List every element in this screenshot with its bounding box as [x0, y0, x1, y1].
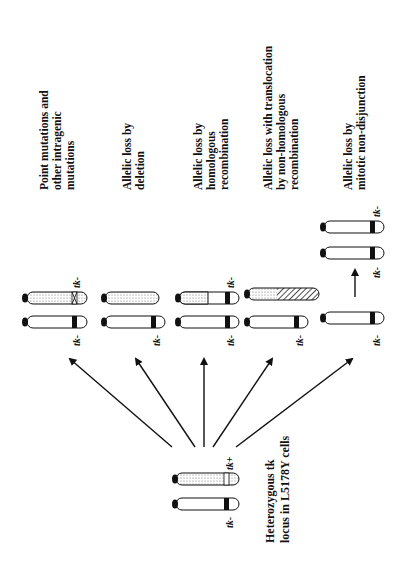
- outcome-translocation: tk-: [244, 288, 319, 346]
- centromere-icon: [101, 294, 107, 303]
- outcome-nondisjunction: tk- tk- tk-: [320, 206, 384, 346]
- centromere-icon: [320, 249, 326, 258]
- allele-label: tk+: [224, 456, 235, 470]
- chromosome-tk-minus: [244, 316, 308, 328]
- label-nondisjunction: Allelic loss by mitotic non-disjunction: [342, 75, 368, 190]
- svg-text:Allelic loss with translocatio: Allelic loss with translocation: [262, 45, 274, 190]
- svg-text:mitotic non-disjunction: mitotic non-disjunction: [355, 75, 368, 190]
- chromosome-tk-minus: [172, 498, 239, 510]
- svg-text:homologous: homologous: [205, 131, 218, 190]
- outcome-point-mutations: tk- tk-: [22, 277, 87, 346]
- allele-label: tk-: [71, 277, 82, 288]
- allele-label: tk-: [225, 277, 236, 288]
- chromosome-tk-minus: [175, 316, 239, 328]
- source-heterozygous: tk+ tk- Heterozygous tk locus in L5178Y …: [172, 435, 292, 543]
- svg-text:other intragenic: other intragenic: [51, 111, 64, 190]
- arrow-icon: [236, 359, 352, 447]
- arrow-icon: [70, 359, 172, 447]
- svg-text:Heterozygous tk: Heterozygous tk: [263, 459, 277, 543]
- svg-text:deletion: deletion: [134, 150, 146, 190]
- centromere-icon: [320, 314, 326, 323]
- svg-text:Allelic loss by: Allelic loss by: [192, 123, 205, 190]
- chromosome-recombinant: [175, 292, 239, 304]
- centromere-icon: [172, 500, 178, 509]
- centromere-icon: [101, 318, 107, 327]
- centromere-icon: [172, 475, 178, 484]
- arrow-icon: [136, 359, 195, 447]
- allelic-loss-diagram: Point mutations and other intragenic mut…: [0, 0, 398, 575]
- chromosome-tk-minus: [320, 312, 384, 324]
- centromere-icon: [22, 294, 28, 303]
- chromosome-deleted: [101, 292, 159, 304]
- chromosome-duplicate-lower: [320, 247, 384, 259]
- source-title: Heterozygous tk locus in L5178Y cells: [263, 435, 292, 543]
- allele-label: tk-: [371, 335, 382, 346]
- chromosome-tk-minus: [22, 316, 87, 328]
- centromere-icon: [320, 223, 326, 232]
- chromosome-tk-plus: [172, 473, 239, 485]
- arrows: [70, 359, 352, 447]
- svg-text:mutations: mutations: [64, 140, 76, 190]
- outcome-homologous: tk- tk-: [175, 277, 239, 346]
- centromere-icon: [175, 294, 181, 303]
- centromere-icon: [244, 318, 250, 327]
- arrow-icon: [213, 359, 272, 447]
- allele-label: tk-: [71, 335, 82, 346]
- label-translocation: Allelic loss with translocation by non-h…: [262, 45, 300, 190]
- outcome-deletion: tk-: [101, 292, 165, 346]
- allele-label: tk-: [294, 335, 305, 346]
- label-deletion: Allelic loss by deletion: [121, 123, 146, 190]
- svg-text:by non-homologous: by non-homologous: [275, 93, 288, 190]
- svg-text:recombination: recombination: [288, 118, 300, 190]
- allele-label: tk-: [225, 335, 236, 346]
- svg-text:Allelic loss by: Allelic loss by: [121, 123, 134, 190]
- label-homologous: Allelic loss by homologous recombination: [192, 118, 230, 190]
- centromere-icon: [22, 318, 28, 327]
- svg-text:recombination: recombination: [218, 118, 230, 190]
- chromosome-translocated: [244, 288, 319, 300]
- svg-text:Allelic loss by: Allelic loss by: [342, 123, 355, 190]
- chromosome-duplicate-upper: [320, 221, 384, 233]
- svg-text:locus in L5178Y cells: locus in L5178Y cells: [278, 435, 292, 543]
- allele-label: tk-: [371, 206, 382, 217]
- label-point-mutations: Point mutations and other intragenic mut…: [38, 90, 76, 190]
- chromosome-tk-minus: [101, 316, 165, 328]
- allele-label: tk-: [224, 517, 235, 528]
- chromosome-mutated: [22, 292, 87, 304]
- centromere-icon: [244, 290, 250, 299]
- allele-label: tk-: [151, 335, 162, 346]
- allele-label: tk-: [371, 267, 382, 278]
- svg-text:Point mutations and: Point mutations and: [38, 90, 50, 190]
- centromere-icon: [175, 318, 181, 327]
